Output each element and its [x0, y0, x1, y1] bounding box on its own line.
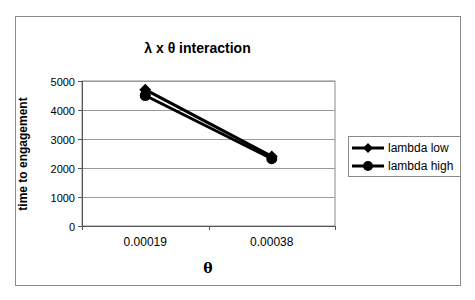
y-tick-label: 2000 — [51, 163, 75, 175]
y-tick-label: 0 — [69, 221, 75, 233]
legend-item-lambda-low: lambda low — [351, 139, 449, 157]
circle-marker-icon — [266, 153, 277, 164]
circle-marker-icon — [140, 90, 151, 101]
plot-border — [82, 81, 335, 226]
y-tick-label: 1000 — [51, 192, 75, 204]
legend-label: lambda high — [388, 159, 453, 173]
y-tick-label: 4000 — [51, 105, 75, 117]
legend-label: lambda low — [388, 141, 449, 155]
y-tick-label: 3000 — [51, 134, 75, 146]
series-line-lambda-high — [145, 96, 272, 159]
y-tick-label: 5000 — [51, 76, 75, 88]
series-line-lambda-low — [145, 90, 272, 157]
circle-marker-icon — [351, 160, 385, 172]
x-tick-label: 0.00038 — [250, 235, 294, 249]
x-tick-label: 0.00019 — [124, 235, 168, 249]
legend: lambda low lambda high — [348, 136, 461, 177]
legend-item-lambda-high: lambda high — [351, 157, 453, 175]
diamond-marker-icon — [351, 142, 385, 154]
